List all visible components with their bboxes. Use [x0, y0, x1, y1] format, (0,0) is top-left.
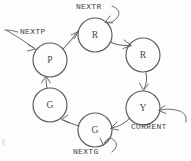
edge-g2-to-p: [42, 76, 51, 88]
node-g2-label: G: [47, 100, 54, 110]
edge-y-to-g1: [111, 118, 131, 130]
pointer-label-nextr: NEXTR: [76, 2, 102, 12]
node-y[interactable]: Y: [126, 91, 160, 125]
node-r2-label: R: [140, 50, 147, 60]
edge-g1-to-g2: [62, 115, 80, 126]
node-p-label: P: [47, 55, 52, 65]
node-g2[interactable]: G: [33, 88, 67, 122]
node-g1-label: G: [92, 125, 99, 135]
pointer-label-nextg: NEXTG: [73, 147, 99, 157]
ring-diagram-svg: P R R Y G G: [0, 0, 191, 161]
node-y-label: Y: [140, 103, 147, 113]
pointer-arrow-current: [159, 106, 187, 123]
edge-p-to-r1: [63, 31, 79, 49]
diagram-canvas: P R R Y G G: [0, 0, 191, 161]
edge-r2-to-y: [140, 73, 149, 91]
pointer-label-current: CURRENT: [131, 122, 167, 132]
node-p[interactable]: P: [33, 43, 67, 77]
pointer-arrow-nextr: [105, 6, 119, 23]
paper-smudge: [2, 139, 5, 146]
pointer-label-nextp: NEXTP: [20, 27, 46, 37]
node-r2[interactable]: R: [126, 38, 160, 72]
node-r1-label: R: [92, 30, 99, 40]
